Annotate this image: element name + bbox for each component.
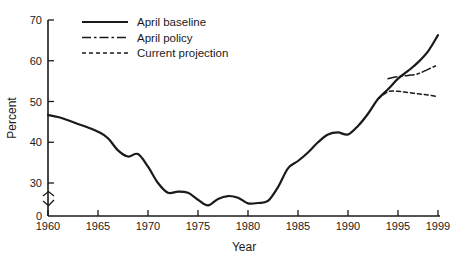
y-tick-labels: 03040506070 — [30, 14, 42, 222]
x-tick-label: 1960 — [36, 220, 60, 232]
x-tick-label: 1985 — [286, 220, 310, 232]
x-tick-marks — [48, 210, 438, 216]
series-line-current-projection — [378, 91, 438, 99]
x-axis-title: Year — [232, 240, 256, 254]
x-tick-label: 1990 — [336, 220, 360, 232]
legend-label: April policy — [137, 32, 193, 44]
legend-label: Current projection — [137, 47, 228, 59]
data-series — [48, 35, 438, 205]
y-tick-label: 70 — [30, 14, 42, 26]
chart-figure: 03040506070 1960196519701975198019851990… — [0, 0, 457, 260]
chart-legend: April baselineApril policyCurrent projec… — [82, 16, 228, 59]
y-axis-title: Percent — [5, 97, 19, 139]
line-chart: 03040506070 1960196519701975198019851990… — [0, 0, 457, 260]
y-tick-label: 60 — [30, 55, 42, 67]
series-line-april-baseline — [48, 35, 438, 205]
y-tick-label: 30 — [30, 177, 42, 189]
y-tick-label: 50 — [30, 96, 42, 108]
x-tick-label: 1980 — [236, 220, 260, 232]
x-tick-label: 1999 — [426, 220, 450, 232]
x-tick-labels: 196019651970197519801985199019951999 — [36, 220, 450, 232]
axes — [48, 20, 440, 216]
x-tick-label: 1965 — [86, 220, 110, 232]
y-tick-label: 40 — [30, 136, 42, 148]
x-tick-label: 1995 — [386, 220, 410, 232]
x-tick-label: 1970 — [136, 220, 160, 232]
x-tick-label: 1975 — [186, 220, 210, 232]
legend-label: April baseline — [137, 16, 206, 28]
y-tick-marks — [48, 20, 54, 183]
